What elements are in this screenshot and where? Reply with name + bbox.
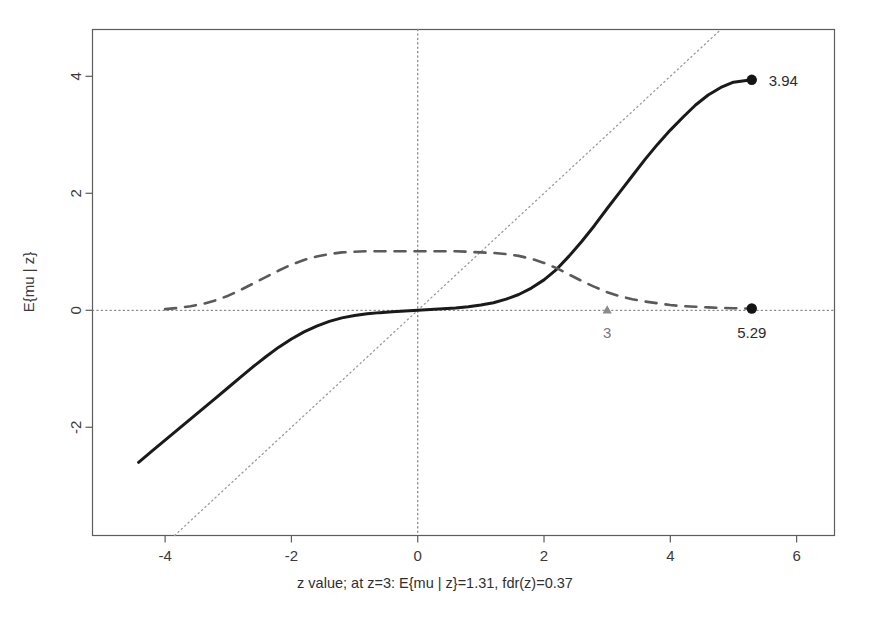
x-tick-label-1: -2 xyxy=(285,547,298,564)
y-tick-label-1: 0 xyxy=(68,306,85,314)
annotation-label-curve-end-value: 3.94 xyxy=(769,72,798,89)
series-end-marker-0 xyxy=(747,75,757,85)
x-tick-label-3: 2 xyxy=(540,547,548,564)
y-tick-label-0: -2 xyxy=(68,421,85,434)
y-tick-label-2: 2 xyxy=(68,189,85,197)
chart-figure: -4-20246 -2024 3.945.293 z value; at z=3… xyxy=(0,0,870,619)
x-tick-label-4: 4 xyxy=(666,547,674,564)
y-axis-label: E{mu | z} xyxy=(20,252,37,313)
x-tick-label-0: -4 xyxy=(158,547,171,564)
annotation-label-fdr-end-value: 5.29 xyxy=(737,324,766,341)
annotation-label-z-equals-3-mark: 3 xyxy=(603,324,611,341)
y-tick-label-3: 4 xyxy=(68,72,85,80)
series-end-marker-1 xyxy=(747,303,757,313)
x-tick-label-5: 6 xyxy=(792,547,800,564)
x-tick-label-2: 0 xyxy=(414,547,422,564)
chart-svg: -4-20246 -2024 3.945.293 z value; at z=3… xyxy=(0,0,870,619)
x-axis-label: z value; at z=3: E{mu | z}=1.31, fdr(z)=… xyxy=(297,575,573,591)
